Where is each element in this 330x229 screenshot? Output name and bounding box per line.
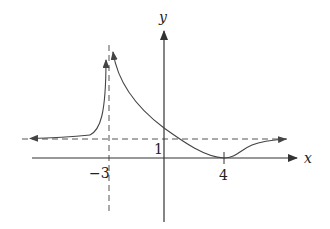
curve-left-branch-upper	[90, 60, 106, 135]
tick-label-neg3: −3	[89, 165, 110, 181]
tick-label-1: 1	[154, 141, 163, 157]
graph-canvas: y x −3 4 1	[0, 0, 330, 229]
tick-label-4: 4	[219, 167, 228, 183]
curve-right-branch	[164, 128, 286, 158]
curve-right-branch-upper	[113, 52, 164, 128]
curve-left-branch	[30, 135, 90, 139]
y-axis-label: y	[158, 9, 168, 25]
x-axis-label: x	[304, 150, 312, 166]
